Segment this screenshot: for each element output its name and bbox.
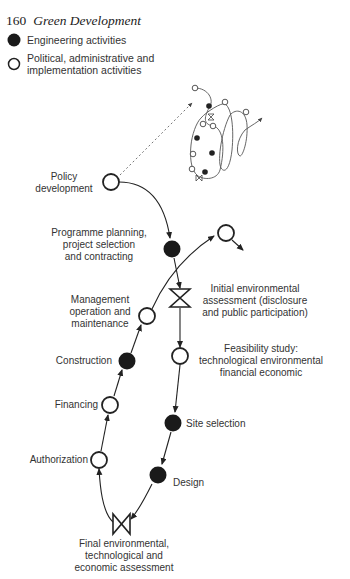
- node-construction-filled-circle-icon: [119, 353, 136, 370]
- node-feasibility-open-circle-icon: [172, 348, 188, 364]
- dotted-arrow-to-spiral: [120, 103, 192, 175]
- node-financing-open-circle-icon: [102, 397, 118, 413]
- label-programme: Programme planning, project selection an…: [40, 227, 158, 263]
- legend-open-circle-icon: [9, 59, 20, 70]
- node-next-cycle-open-circle-icon: [218, 225, 234, 241]
- node-initial-assessment-bowtie-icon: [170, 289, 190, 307]
- legend-filled-circle-icon: [8, 34, 21, 47]
- node-design-filled-circle-icon: [150, 467, 167, 484]
- node-programme-filled-circle-icon: [164, 241, 181, 258]
- spiral-nodes: [189, 85, 249, 181]
- label-financing: Financing: [30, 399, 98, 411]
- label-construction: Construction: [20, 355, 112, 367]
- node-policy-open-circle-icon: [103, 174, 119, 190]
- node-final-assessment-bowtie-icon: [113, 514, 130, 534]
- label-design: Design: [173, 477, 204, 489]
- node-site-selection-filled-circle-icon: [165, 415, 182, 432]
- legend-political-label: Political, administrative and implementa…: [27, 52, 154, 76]
- label-policy: Policy development: [30, 171, 98, 195]
- node-management-open-circle-icon: [139, 308, 155, 324]
- label-management: Management operation and maintenance: [62, 294, 138, 330]
- label-feasibility: Feasibility study: technological environ…: [196, 343, 326, 379]
- legend-engineering-label: Engineering activities: [27, 34, 126, 46]
- label-final-assessment: Final environmental, technological and e…: [66, 538, 182, 574]
- diagram-page: 160Green Development: [0, 0, 350, 579]
- node-authorization-open-circle-icon: [91, 452, 107, 468]
- label-authorization: Authorization: [8, 454, 88, 466]
- label-site-selection: Site selection: [186, 418, 245, 430]
- label-initial-assessment: Initial environmental assessment (disclo…: [192, 283, 318, 319]
